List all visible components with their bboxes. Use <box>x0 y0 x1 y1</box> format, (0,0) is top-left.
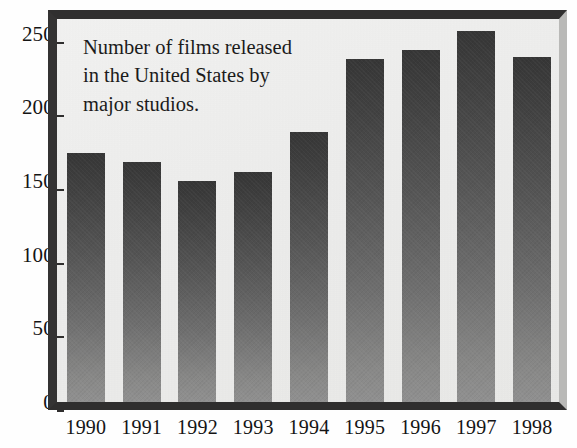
x-axis-tick-label: 1997 <box>456 416 497 439</box>
x-axis-tick-label: 1991 <box>121 416 162 439</box>
plot-frame: Number of films released in the United S… <box>48 10 567 410</box>
y-axis-tickmark <box>57 410 64 412</box>
y-axis-tickmark <box>57 42 64 44</box>
bar-1995 <box>346 59 384 402</box>
y-axis-tickmark <box>57 115 64 117</box>
chart-annotation: Number of films released in the United S… <box>83 33 343 118</box>
bar-1996 <box>402 50 440 402</box>
bar-1991 <box>123 162 161 402</box>
x-axis-tick-label: 1998 <box>512 416 553 439</box>
x-axis-tick-label: 1993 <box>233 416 274 439</box>
plot-area: Number of films released in the United S… <box>57 19 559 402</box>
x-axis-tick-label: 1996 <box>400 416 441 439</box>
bar-1998 <box>513 57 551 402</box>
bar-1997 <box>457 31 495 402</box>
bar-1994 <box>290 132 328 402</box>
y-axis-tickmark <box>57 189 64 191</box>
bar-1990 <box>67 153 105 402</box>
y-axis-tickmark <box>57 336 64 338</box>
x-axis-tick-label: 1994 <box>289 416 330 439</box>
y-axis-tickmark <box>57 263 64 265</box>
bar-1993 <box>234 172 272 402</box>
bar-1992 <box>178 181 216 402</box>
x-axis-tick-label: 1992 <box>177 416 218 439</box>
x-axis-tick-label: 1990 <box>65 416 106 439</box>
bar-chart-figure: 050100150200250 Number of films released… <box>0 0 577 448</box>
x-axis-tick-label: 1995 <box>344 416 385 439</box>
